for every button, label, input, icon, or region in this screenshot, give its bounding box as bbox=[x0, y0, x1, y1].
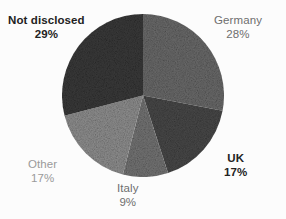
pie-label-not-disclosed-name: Not disclosed bbox=[8, 14, 85, 28]
pie-label-uk-name: UK bbox=[224, 152, 247, 166]
pie-chart bbox=[62, 14, 224, 177]
pie-label-germany-value: 28% bbox=[214, 28, 262, 42]
pie-label-other-name: Other bbox=[28, 158, 57, 172]
pie-label-germany: Germany 28% bbox=[214, 14, 262, 41]
pie-label-germany-name: Germany bbox=[214, 14, 262, 28]
pie-label-uk: UK 17% bbox=[224, 152, 247, 179]
pie-label-not-disclosed-value: 29% bbox=[8, 28, 85, 42]
pie-label-other: Other 17% bbox=[28, 158, 57, 185]
pie-label-italy-name: Italy bbox=[117, 182, 139, 196]
pie-label-not-disclosed: Not disclosed 29% bbox=[8, 14, 85, 41]
pie-label-italy-value: 9% bbox=[117, 196, 139, 210]
pie-chart-svg bbox=[62, 14, 224, 177]
pie-chart-screenshot: Not disclosed 29% Germany 28% UK 17% Ita… bbox=[0, 0, 286, 219]
pie-label-uk-value: 17% bbox=[224, 166, 247, 180]
pie-label-other-value: 17% bbox=[28, 172, 57, 186]
pie-slice-germany bbox=[143, 14, 224, 111]
pie-label-italy: Italy 9% bbox=[117, 182, 139, 209]
